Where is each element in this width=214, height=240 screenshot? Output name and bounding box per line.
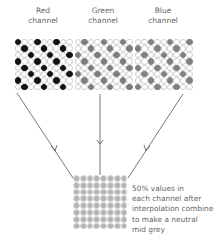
pixel-cell <box>107 202 114 209</box>
pixel-cell <box>114 202 121 209</box>
arrow-red-to-result <box>17 93 73 178</box>
pixel-cell <box>107 189 114 196</box>
note-line: each channel after <box>132 194 213 204</box>
pixel-cell <box>80 223 87 230</box>
pixel-cell <box>73 175 80 182</box>
pixel-cell <box>100 216 107 223</box>
pixel-cell <box>107 223 114 230</box>
pixel-cell <box>100 195 107 202</box>
pixel-cell <box>80 195 87 202</box>
pixel-cell <box>87 189 94 196</box>
pixel-cell <box>114 209 121 216</box>
pixel-cell <box>87 202 94 209</box>
pixel-cell <box>93 216 100 223</box>
pixel-cell <box>107 209 114 216</box>
pixel-cell <box>87 209 94 216</box>
pixel-cell <box>114 216 121 223</box>
pixel-cell <box>93 223 100 230</box>
result-note: 50% values in each channel after interpo… <box>132 184 213 235</box>
pixel-cell <box>80 202 87 209</box>
pixel-cell <box>100 223 107 230</box>
result-grid <box>73 175 127 229</box>
pixel-cell <box>80 175 87 182</box>
pixel-cell <box>87 223 94 230</box>
note-line: interpolation combine <box>132 204 213 214</box>
pixel-cell <box>121 195 128 202</box>
note-line: to make a neutral <box>132 215 213 225</box>
note-line: 50% values in <box>132 184 213 194</box>
pixel-cell <box>100 202 107 209</box>
pixel-cell <box>73 223 80 230</box>
pixel-cell <box>121 209 128 216</box>
pixel-cell <box>93 202 100 209</box>
pixel-cell <box>100 189 107 196</box>
pixel-cell <box>73 216 80 223</box>
pixel-cell <box>80 189 87 196</box>
pixel-cell <box>121 223 128 230</box>
pixel-cell <box>73 189 80 196</box>
arrow-blue-to-result <box>128 94 183 178</box>
pixel-cell <box>121 202 128 209</box>
pixel-cell <box>80 182 87 189</box>
pixel-cell <box>93 209 100 216</box>
pixel-cell <box>121 175 128 182</box>
pixel-cell <box>107 216 114 223</box>
pixel-cell <box>107 175 114 182</box>
pixel-cell <box>73 182 80 189</box>
pixel-cell <box>73 195 80 202</box>
pixel-cell <box>100 182 107 189</box>
pixel-cell <box>121 189 128 196</box>
pixel-cell <box>73 209 80 216</box>
pixel-cell <box>114 175 121 182</box>
pixel-cell <box>114 189 121 196</box>
pixel-cell <box>121 216 128 223</box>
pixel-cell <box>87 175 94 182</box>
note-line: mid grey <box>132 225 213 235</box>
pixel-cell <box>107 195 114 202</box>
pixel-cell <box>114 195 121 202</box>
pixel-cell <box>107 182 114 189</box>
pixel-cell <box>100 209 107 216</box>
pixel-cell <box>87 195 94 202</box>
pixel-cell <box>80 216 87 223</box>
pixel-cell <box>93 195 100 202</box>
pixel-cell <box>80 209 87 216</box>
pixel-cell <box>87 182 94 189</box>
pixel-cell <box>93 182 100 189</box>
pixel-cell <box>114 182 121 189</box>
pixel-cell <box>73 202 80 209</box>
pixel-cell <box>93 175 100 182</box>
pixel-cell <box>121 182 128 189</box>
pixel-cell <box>87 216 94 223</box>
pixel-cell <box>114 223 121 230</box>
pixel-cell <box>100 175 107 182</box>
pixel-cell <box>93 189 100 196</box>
